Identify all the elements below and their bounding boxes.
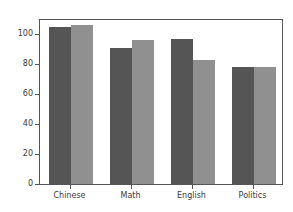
- x-tick-mark: [70, 185, 71, 189]
- bar-chart: 020406080100 ChineseMathEnglishPolitics: [0, 0, 293, 212]
- y-tick-label: 60: [23, 89, 33, 98]
- bar: [232, 67, 254, 184]
- y-tick-mark: [35, 34, 39, 35]
- bar: [71, 25, 93, 184]
- x-tick-label: English: [177, 191, 206, 201]
- bar: [193, 60, 215, 184]
- bar: [110, 48, 132, 184]
- y-tick-mark: [35, 124, 39, 125]
- plot-area: [39, 19, 283, 185]
- x-axis: ChineseMathEnglishPolitics: [39, 185, 283, 212]
- x-tick-mark: [192, 185, 193, 189]
- x-tick-label: Politics: [239, 191, 267, 201]
- y-tick-label: 40: [23, 119, 33, 128]
- y-tick-label: 20: [23, 149, 33, 158]
- x-tick-mark: [131, 185, 132, 189]
- x-tick-mark: [253, 185, 254, 189]
- y-axis: 020406080100: [0, 0, 39, 212]
- bar: [254, 67, 276, 184]
- x-tick-label: Math: [120, 191, 140, 201]
- y-tick-label: 100: [18, 29, 33, 38]
- bar: [171, 39, 193, 184]
- bar: [49, 27, 71, 184]
- x-tick-label: Chinese: [54, 191, 86, 201]
- y-tick-mark: [35, 64, 39, 65]
- bar: [132, 40, 154, 184]
- y-tick-mark: [35, 154, 39, 155]
- y-tick-label: 80: [23, 59, 33, 68]
- y-tick-mark: [35, 94, 39, 95]
- y-tick-label: 0: [28, 179, 33, 188]
